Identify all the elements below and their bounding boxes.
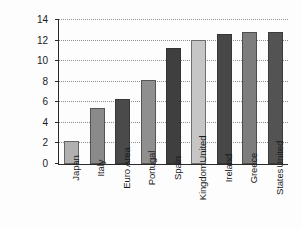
x-label-slot: Italy xyxy=(84,168,110,226)
bar-chart-figure: Government Deficit as a Percentage of GD… xyxy=(0,0,302,228)
x-label-slot: UnitedKingdom xyxy=(186,168,212,226)
x-axis-label-word: Ireland xyxy=(224,154,234,182)
x-axis-label: Euro Area xyxy=(122,147,132,188)
y-tick-label: 10 xyxy=(37,56,48,66)
bar-slot xyxy=(161,20,186,164)
x-axis-label-word: Euro Area xyxy=(122,147,132,188)
x-label-slot: Ireland xyxy=(211,168,237,226)
x-axis-label: Spain xyxy=(173,156,183,180)
bar-slot xyxy=(59,20,84,164)
x-axis-label: Greece xyxy=(250,153,260,184)
x-axis-label-word: Greece xyxy=(250,153,260,184)
x-axis-label-word: Italy xyxy=(96,160,106,177)
cropped-neighbour-text xyxy=(301,55,302,64)
bar-slot xyxy=(237,20,262,164)
x-axis-label-word: Spain xyxy=(173,156,183,180)
x-axis-label-word: Kingdom xyxy=(199,164,209,201)
bar[interactable] xyxy=(166,48,181,164)
bar[interactable] xyxy=(242,32,257,164)
x-axis-label-word: States xyxy=(275,169,285,195)
bar-series xyxy=(59,20,288,164)
bar[interactable] xyxy=(217,34,232,164)
x-axis-labels: JapanItalyEuro AreaPortugalSpainUnitedKi… xyxy=(58,168,288,226)
x-axis-label-word: United xyxy=(275,141,285,168)
bar-slot xyxy=(110,20,135,164)
y-tick-label: 12 xyxy=(37,36,48,46)
x-axis-label-word: Portugal xyxy=(147,151,157,186)
x-axis-label-word: Japan xyxy=(71,155,81,180)
x-label-slot: Greece xyxy=(237,168,263,226)
x-label-slot: Spain xyxy=(160,168,186,226)
y-tick-label: 6 xyxy=(42,97,48,107)
x-axis-label: Italy xyxy=(96,160,106,177)
y-tick-label: 4 xyxy=(42,118,48,128)
x-axis-label: UnitedKingdom xyxy=(199,136,209,201)
y-tick-label: 14 xyxy=(37,15,48,25)
bar[interactable] xyxy=(90,108,105,164)
x-axis-label: UnitedStates xyxy=(275,141,285,195)
bar-slot xyxy=(84,20,109,164)
x-label-slot: Portugal xyxy=(135,168,161,226)
y-tick-label: 8 xyxy=(42,77,48,87)
x-label-slot: UnitedStates xyxy=(263,168,289,226)
bar-slot xyxy=(135,20,160,164)
plot-area: 02468101214 xyxy=(58,20,288,165)
bar-slot xyxy=(212,20,237,164)
x-label-slot: Euro Area xyxy=(109,168,135,226)
x-axis-label: Ireland xyxy=(224,154,234,182)
x-label-slot: Japan xyxy=(58,168,84,226)
y-tick-label: 0 xyxy=(42,159,48,169)
x-axis-label: Portugal xyxy=(147,151,157,186)
x-axis-label: Japan xyxy=(71,155,81,180)
x-axis-label-word: United xyxy=(199,136,209,163)
y-tick-label: 2 xyxy=(42,138,48,148)
